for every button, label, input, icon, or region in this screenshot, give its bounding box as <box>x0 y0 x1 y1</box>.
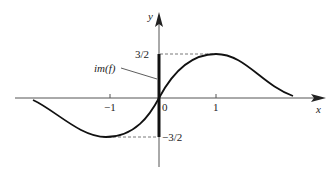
tick-label-one: 1 <box>213 101 219 113</box>
tick-label-zero: 0 <box>162 101 168 113</box>
function-curve <box>33 54 293 137</box>
tick-label-pos-three-halves: 3/2 <box>135 48 149 60</box>
graph-canvas: y x 3/2 −3/2 −1 0 1 im(f) <box>0 0 335 180</box>
x-axis-label: x <box>315 103 321 115</box>
tick-label-minus-one: −1 <box>104 101 116 113</box>
tick-label-neg-three-halves: −3/2 <box>162 131 182 143</box>
im-f-label: im(f) <box>94 62 116 75</box>
im-f-leader-line <box>121 68 157 79</box>
y-axis-label: y <box>147 10 153 22</box>
function-graph-figure: y x 3/2 −3/2 −1 0 1 im(f) <box>0 0 335 180</box>
